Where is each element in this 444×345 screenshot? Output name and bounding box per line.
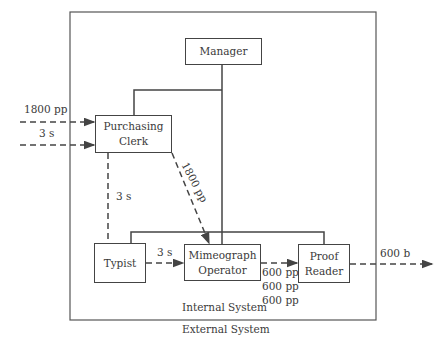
manager-node: Manager bbox=[185, 38, 262, 65]
typist-to-mimeograph-label: 3 s bbox=[157, 246, 172, 258]
proof-reader-label-1: Proof bbox=[310, 249, 339, 264]
proof-reader-node: Proof Reader bbox=[298, 244, 350, 283]
typist-node: Typist bbox=[94, 243, 146, 283]
purchasing-clerk-node: Purchasing Clerk bbox=[95, 115, 172, 153]
clerk-to-typist-label: 3 s bbox=[116, 190, 131, 202]
mimeo-to-proof-label-1: 600 pp bbox=[262, 266, 299, 278]
mimeo-to-proof-label-3: 600 pp bbox=[262, 294, 299, 306]
external-system-label: External System bbox=[182, 323, 270, 335]
internal-system-label: Internal System bbox=[182, 301, 267, 313]
manager-label: Manager bbox=[200, 44, 248, 59]
mimeograph-label-2: Operator bbox=[198, 263, 246, 278]
mimeo-to-proof-label-2: 600 pp bbox=[262, 280, 299, 292]
purchasing-clerk-label-1: Purchasing bbox=[104, 119, 164, 134]
mimeograph-operator-node: Mimeograph Operator bbox=[184, 244, 261, 281]
output-label: 600 b bbox=[380, 247, 410, 259]
mimeograph-label-1: Mimeograph bbox=[188, 248, 256, 263]
input-pages-label: 1800 pp bbox=[24, 103, 68, 115]
proof-reader-label-2: Reader bbox=[305, 264, 343, 279]
typist-label: Typist bbox=[104, 256, 137, 271]
input-stencils-label: 3 s bbox=[39, 127, 54, 139]
purchasing-clerk-label-2: Clerk bbox=[119, 134, 148, 149]
